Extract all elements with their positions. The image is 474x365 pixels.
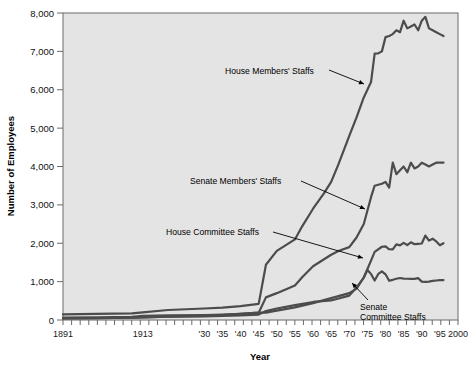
y-tick-label: 6,000 bbox=[30, 84, 54, 95]
x-tick-label: '45 bbox=[253, 329, 265, 339]
annotation-senate-committee-staffs-line1: Senate bbox=[360, 302, 387, 312]
y-axis-title: Number of Employees bbox=[5, 116, 16, 216]
x-tick-label: '65 bbox=[325, 329, 337, 339]
staff-growth-line-chart: 8,0007,0006,0005,0004,0003,0002,0001,000… bbox=[0, 0, 474, 365]
x-tick-label: '80 bbox=[380, 329, 392, 339]
y-tick-label: 3,000 bbox=[30, 199, 54, 210]
x-tick-label: 2000 bbox=[448, 329, 468, 339]
annotation-senate-members-staffs: Senate Members' Staffs bbox=[190, 176, 281, 186]
annotation-house-committee-staffs: House Committee Staffs bbox=[166, 227, 259, 237]
y-tick-label: 8,000 bbox=[30, 8, 54, 19]
x-tick-label: '60 bbox=[307, 329, 319, 339]
x-tick-label: 1913 bbox=[133, 329, 153, 339]
chart-figure: 8,0007,0006,0005,0004,0003,0002,0001,000… bbox=[0, 0, 474, 365]
x-tick-label: '30 bbox=[198, 329, 210, 339]
y-tick-label: 1,000 bbox=[30, 276, 54, 287]
x-tick-label: '75 bbox=[362, 329, 374, 339]
x-tick-label: '40 bbox=[235, 329, 247, 339]
x-axis-title: Year bbox=[250, 351, 270, 362]
annotation-senate-committee-staffs-line2: Committee Staffs bbox=[360, 312, 426, 322]
x-tick-label: '85 bbox=[398, 329, 410, 339]
x-tick-label: 1891 bbox=[53, 329, 73, 339]
y-axis-tick-labels: 8,0007,0006,0005,0004,0003,0002,0001,000… bbox=[30, 8, 54, 326]
x-tick-label: '35 bbox=[217, 329, 229, 339]
y-tick-label: 2,000 bbox=[30, 238, 54, 249]
x-tick-label: '95 bbox=[434, 329, 446, 339]
annotation-house-members-staffs: House Members' Staffs bbox=[225, 66, 314, 76]
x-tick-label: '50 bbox=[271, 329, 283, 339]
x-tick-label: '55 bbox=[289, 329, 301, 339]
y-tick-label: 0 bbox=[49, 315, 54, 326]
y-tick-label: 4,000 bbox=[30, 161, 54, 172]
y-tick-label: 5,000 bbox=[30, 123, 54, 134]
y-tick-label: 7,000 bbox=[30, 46, 54, 57]
plot-area-background bbox=[63, 13, 458, 320]
x-tick-label: '90 bbox=[416, 329, 428, 339]
x-tick-label: '70 bbox=[343, 329, 355, 339]
